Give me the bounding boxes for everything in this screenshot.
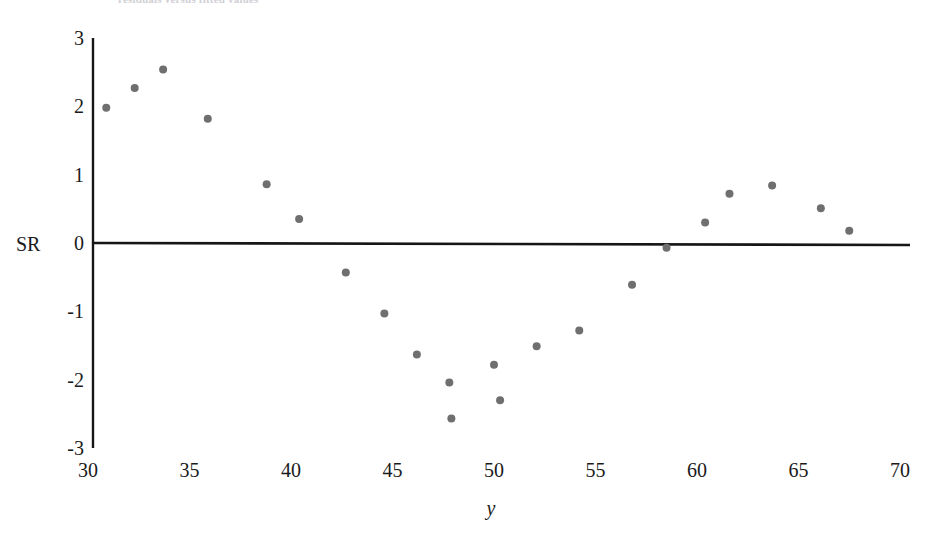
y-tick-label: 2	[74, 95, 84, 117]
scatter-point	[204, 115, 212, 123]
y-tick-label: -2	[67, 369, 84, 391]
y-tick-label: 1	[74, 164, 84, 186]
x-tick-label: 30	[78, 459, 98, 481]
x-tick-label: 45	[383, 459, 403, 481]
y-tick-label: -3	[67, 437, 84, 459]
y-tick-label-group: 3210-1-2-3	[67, 27, 84, 459]
y-tick-label: 3	[74, 27, 84, 49]
x-tick-label: 70	[890, 459, 910, 481]
scatter-point	[490, 361, 498, 369]
scatter-point	[845, 227, 853, 235]
x-axis-label: y	[485, 497, 496, 520]
x-tick-label: 60	[687, 459, 707, 481]
scatter-point	[725, 190, 733, 198]
scatter-plot-canvas: 3210-1-2-3 303540455055606570 SR y	[0, 0, 941, 544]
x-tick-label: 50	[484, 459, 504, 481]
clipped-top-caption: residuals versus fitted values	[118, 0, 259, 5]
scatter-point	[496, 396, 504, 404]
zero-reference-line	[93, 243, 910, 245]
scatter-point	[768, 182, 776, 190]
residual-scatter-figure: residuals versus fitted values 3210-1-2-…	[0, 0, 941, 544]
scatter-point	[533, 342, 541, 350]
scatter-point	[817, 204, 825, 212]
y-tick-label: 0	[74, 232, 84, 254]
scatter-point	[575, 326, 583, 334]
y-tick-label: -1	[67, 300, 84, 322]
x-tick-label: 55	[586, 459, 606, 481]
scatter-point	[342, 268, 350, 276]
scatter-point	[131, 84, 139, 92]
scatter-point	[295, 215, 303, 223]
y-axis-label: SR	[16, 233, 41, 255]
scatter-point	[380, 309, 388, 317]
scatter-point	[628, 281, 636, 289]
scatter-point	[663, 244, 671, 252]
x-tick-label: 35	[180, 459, 200, 481]
x-tick-label: 40	[281, 459, 301, 481]
scatter-point	[263, 180, 271, 188]
x-tick-label-group: 303540455055606570	[78, 459, 910, 481]
scatter-point	[102, 104, 110, 112]
scatter-point	[445, 378, 453, 386]
scatter-point	[701, 219, 709, 227]
x-tick-label: 65	[789, 459, 809, 481]
scatter-point	[447, 415, 455, 423]
scatter-point	[159, 65, 167, 73]
scatter-point	[413, 350, 421, 358]
